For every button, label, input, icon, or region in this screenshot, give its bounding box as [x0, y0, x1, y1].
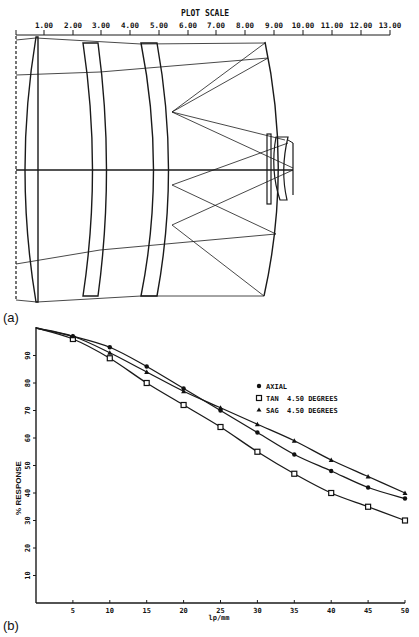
scale-tick-label: 10.00	[292, 21, 315, 30]
scale-tick-label: 11.00	[321, 21, 344, 30]
y-tick-label: 60	[24, 434, 32, 442]
scale-tick-label: 9.00	[265, 21, 284, 30]
x-tick-label: 10	[106, 607, 114, 615]
field-lens-1	[267, 134, 271, 204]
x-tick-label: 15	[142, 607, 150, 615]
data-point-marker	[255, 449, 260, 454]
series-line	[36, 328, 405, 499]
data-point-marker	[218, 425, 223, 430]
scale-tick-label: 4.00	[121, 21, 140, 30]
panel-a-lens-diagram: PLOT SCALE 1.00 2.00 3.00 4.00 5.00 6.00…	[3, 9, 402, 325]
data-point-marker	[403, 518, 408, 523]
legend-label-tan: TAN 4.50 DEGREES	[266, 395, 338, 403]
series-square	[36, 328, 408, 523]
y-tick-label: 10	[24, 571, 32, 579]
data-point-marker	[329, 491, 334, 496]
y-axis-title: % RESPONSE	[14, 460, 23, 514]
x-tick-label: 30	[253, 607, 261, 615]
data-point-marker	[366, 485, 370, 489]
scale-tick-label: 12.00	[350, 21, 373, 30]
data-point-marker	[107, 356, 112, 361]
legend-label-sag: SAG 4.50 DEGREES	[266, 407, 338, 415]
plot-scale-title: PLOT SCALE	[181, 9, 229, 18]
field-lens-2	[274, 137, 288, 200]
legend-label-axial: AXIAL	[266, 383, 287, 391]
data-point-marker	[403, 496, 407, 500]
x-axis-tick-labels: 5 10 15 20 25 30 35 40 45 50	[71, 607, 409, 615]
panel-b-label: (b)	[3, 618, 19, 633]
x-tick-label: 5	[71, 607, 75, 615]
x-tick-label: 50	[401, 607, 409, 615]
data-point-marker	[108, 345, 112, 349]
scale-tick-label: 2.00	[64, 21, 83, 30]
scale-tick-label: 5.00	[150, 21, 169, 30]
figure: PLOT SCALE 1.00 2.00 3.00 4.00 5.00 6.00…	[0, 0, 419, 637]
y-tick-label: 90	[24, 351, 32, 359]
y-tick-label: 50	[24, 461, 32, 469]
data-point-marker	[145, 364, 149, 368]
data-point-marker	[181, 403, 186, 408]
y-tick-label: 20	[24, 544, 32, 552]
series-layer	[36, 328, 408, 523]
panel-b-mtf-chart: 10 20 30 40 50 60 70 80 90 % RESPONSE 5	[3, 327, 409, 633]
legend-marker-axial-icon	[257, 384, 261, 388]
panel-a-label: (a)	[3, 310, 19, 325]
legend: AXIAL TAN 4.50 DEGREES SAG 4.50 DEGREES	[257, 383, 338, 415]
scale-tick-label: 6.00	[179, 21, 198, 30]
x-tick-label: 20	[179, 607, 187, 615]
legend-marker-sag-icon	[257, 408, 262, 412]
data-point-marker	[292, 452, 296, 456]
y-tick-label: 40	[24, 489, 32, 497]
y-tick-label: 80	[24, 379, 32, 387]
data-point-marker	[292, 471, 297, 476]
y-tick-label: 70	[24, 406, 32, 414]
x-tick-label: 45	[364, 607, 372, 615]
scale-tick-label: 8.00	[236, 21, 255, 30]
x-tick-label: 35	[290, 607, 298, 615]
x-axis-title: lp/mm	[208, 614, 229, 622]
data-point-marker	[329, 469, 333, 473]
scale-tick-label: 7.00	[207, 21, 226, 30]
plot-scale-tick-labels: 1.00 2.00 3.00 4.00 5.00 6.00 7.00 8.00 …	[35, 21, 402, 30]
scale-tick-label: 1.00	[35, 21, 54, 30]
plot-scale-bar	[16, 30, 390, 35]
scale-tick-label: 3.00	[92, 21, 111, 30]
y-axis-tick-labels: 10 20 30 40 50 60 70 80 90	[24, 351, 32, 579]
scale-tick-label: 13.00	[379, 21, 402, 30]
x-tick-label: 40	[327, 607, 335, 615]
data-point-marker	[366, 504, 371, 509]
y-tick-label: 30	[24, 516, 32, 524]
series-filled-circle	[36, 328, 407, 501]
data-point-marker	[144, 381, 149, 386]
data-point-marker	[255, 430, 259, 434]
legend-marker-tan-icon	[257, 396, 262, 401]
